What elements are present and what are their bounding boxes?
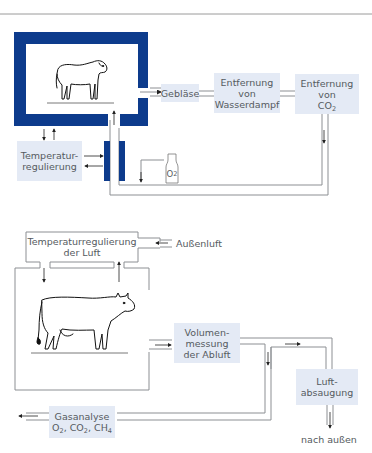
gas-label-1: Gasanalyse xyxy=(55,411,110,422)
co2-label-2: von xyxy=(318,89,335,100)
heat-exchanger-left xyxy=(104,141,110,181)
temperature-regulation-box: Temperatur- regulierung xyxy=(17,141,82,181)
return-loop-outer xyxy=(119,114,322,185)
air-extraction-box: Luft- absaugung xyxy=(296,369,358,405)
volume-label-1: Volumen- xyxy=(185,327,230,338)
cow-icon xyxy=(37,293,135,349)
water-vapor-label-1: Entfernung xyxy=(221,77,274,88)
water-vapor-label-2: von xyxy=(238,88,255,99)
route-volume-to-exhaust-outer xyxy=(240,338,332,369)
gas-o2: O xyxy=(52,422,59,433)
route-inner-to-exhaust xyxy=(271,347,326,369)
o2-main: O xyxy=(167,169,174,180)
sheep-icon xyxy=(56,61,107,99)
to-outside-label: nach außen xyxy=(298,432,360,446)
co2-sub: 2 xyxy=(332,105,336,113)
o2-feed-line xyxy=(141,160,164,181)
air-temp-label-1: Temperaturregulierung xyxy=(27,236,136,247)
co2-removal-box: Entfernung von CO2 xyxy=(295,74,359,114)
air-temp-regulation-box: Temperaturregulierung der Luft xyxy=(28,234,136,260)
extraction-label-1: Luft- xyxy=(316,376,337,387)
temp-label-2: regulierung xyxy=(22,161,77,172)
duct-between xyxy=(50,262,114,268)
respiration-chamber-frame xyxy=(14,32,148,126)
gas-label-2: O2, CO2, CH4 xyxy=(52,422,112,433)
volume-label-2: messung xyxy=(185,338,228,349)
co2-label-1: Entfernung xyxy=(301,78,354,89)
air-temp-label-2: der Luft xyxy=(64,247,101,258)
heat-exchanger-right xyxy=(119,141,125,181)
exhaust-volume-measurement-box: Volumen- messung der Abluft xyxy=(174,323,240,363)
to-outside-text: nach außen xyxy=(301,434,357,445)
co2-main: CO xyxy=(318,100,332,111)
volume-label-3: der Abluft xyxy=(184,349,231,360)
gas-analysis-box: Gasanalyse O2, CO2, CH4 xyxy=(49,406,115,438)
blower-box: Gebläse xyxy=(161,84,199,102)
extraction-label-2: absaugung xyxy=(301,387,354,398)
water-vapor-label-3: Wasserdampf xyxy=(215,99,280,110)
outside-air-label: Außenluft xyxy=(176,236,226,250)
gas-co2: CO xyxy=(70,422,84,433)
gas-ch4: CH xyxy=(94,422,108,433)
temp-label-1: Temperatur- xyxy=(21,150,78,161)
water-vapor-removal-box: Entfernung von Wasserdampf xyxy=(214,73,280,113)
o2-bottle-label: O2 xyxy=(166,168,178,180)
return-loop-inner xyxy=(110,114,328,195)
blower-label: Gebläse xyxy=(161,88,200,99)
outside-air-text: Außenluft xyxy=(176,238,222,249)
co2-label-3: CO2 xyxy=(318,100,336,111)
gas-ch4-sub: 4 xyxy=(108,427,112,435)
